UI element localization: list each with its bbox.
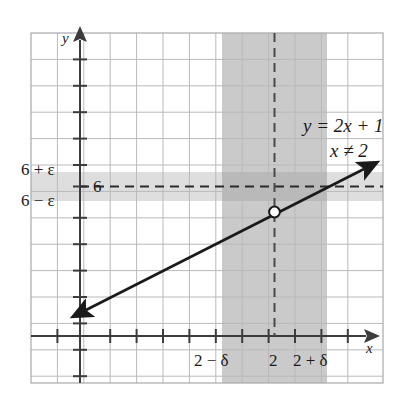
y-axis-label: y <box>62 31 69 46</box>
x-label-right-delta: 2 + δ <box>293 352 328 369</box>
x-axis-label: x <box>366 341 373 356</box>
y-label-center: 6 <box>93 178 102 195</box>
equation-label-line2: x ≠ 2 <box>330 141 368 160</box>
equation-label-line1: y = 2x + 1 <box>303 116 384 135</box>
x-label-left-delta: 2 − δ <box>194 352 229 369</box>
y-label-upper-epsilon: 6 + ε <box>21 161 55 178</box>
y-label-lower-epsilon: 6 − ε <box>21 192 55 209</box>
limit-diagram-figure: y x 6 + ε 6 6 − ε 2 − δ 2 2 + δ y = 2x +… <box>0 0 411 409</box>
x-label-center: 2 <box>269 352 278 369</box>
graph-canvas <box>0 0 411 409</box>
open-circle-hole <box>269 207 280 218</box>
